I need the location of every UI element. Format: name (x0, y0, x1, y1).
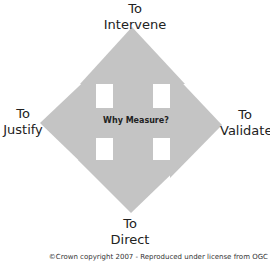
label-justify-line2: Justify (0, 122, 46, 138)
label-justify-line1: To (0, 106, 46, 122)
label-validate-line1: To (220, 107, 270, 123)
label-direct-line1: To (85, 216, 175, 232)
label-intervene: To Intervene (85, 1, 185, 33)
label-validate-line2: Validate (220, 123, 270, 139)
left-arrowhead (40, 70, 96, 177)
why-measure-diagram: To Intervene To Justify To Validate To D… (0, 0, 270, 269)
label-direct: To Direct (85, 216, 175, 248)
center-label: Why Measure? (98, 116, 174, 125)
label-intervene-line2: Intervene (85, 17, 185, 33)
label-justify: To Justify (0, 106, 46, 138)
label-intervene-line1: To (85, 1, 185, 17)
right-arrowhead (170, 70, 222, 178)
copyright-notice: ©Crown copyright 2007 - Reproduced under… (49, 253, 268, 261)
label-validate: To Validate (220, 107, 270, 139)
label-direct-line2: Direct (85, 232, 175, 248)
